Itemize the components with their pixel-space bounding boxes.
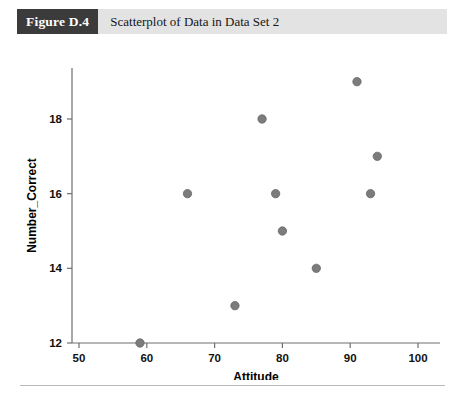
data-point: [278, 227, 286, 235]
y-tick-label-16: 16: [49, 188, 62, 200]
x-tick-label-100: 100: [408, 352, 427, 364]
y-tick-label-14: 14: [49, 262, 62, 274]
x-axis-title: Attitude: [233, 370, 279, 380]
figure-caption-text: Scatterplot of Data in Data Set 2: [98, 9, 279, 34]
data-point: [231, 301, 239, 309]
data-point: [258, 115, 266, 123]
y-axis-title: Number_Correct: [25, 158, 39, 253]
data-point: [136, 339, 144, 347]
data-point: [373, 152, 381, 160]
data-points-layer: [136, 77, 382, 347]
x-axis: 5060708090100: [72, 343, 440, 364]
y-tick-label-18: 18: [49, 113, 62, 125]
bottom-divider: [20, 385, 445, 386]
data-point: [353, 77, 361, 85]
data-point: [366, 189, 374, 197]
x-tick-label-90: 90: [344, 352, 357, 364]
scatterplot-canvas: 12141618 5060708090100 Attitude Number_C…: [0, 40, 464, 380]
figure-caption-bar: Figure D.4 Scatterplot of Data in Data S…: [17, 9, 447, 34]
x-tick-label-70: 70: [208, 352, 221, 364]
x-tick-label-80: 80: [276, 352, 289, 364]
data-point: [312, 264, 320, 272]
data-point: [183, 189, 191, 197]
y-axis: 12141618: [49, 68, 72, 349]
y-tick-label-12: 12: [49, 337, 62, 349]
x-tick-label-50: 50: [73, 352, 86, 364]
data-point: [271, 189, 279, 197]
scatterplot-figure: 12141618 5060708090100 Attitude Number_C…: [0, 40, 464, 380]
x-tick-label-60: 60: [140, 352, 153, 364]
figure-number-badge: Figure D.4: [17, 9, 98, 34]
